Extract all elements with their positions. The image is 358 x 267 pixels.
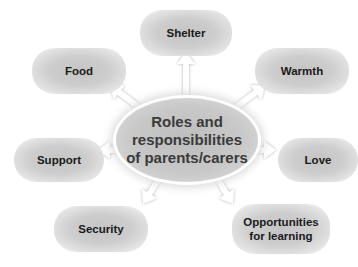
central-topic-line-1: Roles and [126, 113, 248, 131]
node-food: Food [32, 48, 126, 94]
node-love-label: Love [305, 153, 332, 167]
node-opportunities-line-1: Opportunities [243, 215, 318, 229]
arrow-shelter-icon [177, 52, 195, 100]
node-food-label: Food [65, 64, 93, 78]
node-warmth-label: Warmth [281, 64, 323, 78]
node-opportunities: Opportunities for learning [232, 204, 330, 254]
central-topic-line-2: responsibilities [126, 131, 248, 149]
node-shelter: Shelter [140, 10, 232, 56]
node-support: Support [14, 138, 104, 182]
node-security: Security [54, 206, 148, 252]
arrow-opportunities-icon [210, 175, 240, 208]
arrow-security-icon [136, 175, 166, 208]
node-love: Love [278, 138, 358, 182]
node-security-label: Security [78, 222, 123, 236]
node-shelter-label: Shelter [167, 26, 206, 40]
node-support-label: Support [37, 153, 81, 167]
central-topic: Roles and responsibilities of parents/ca… [116, 98, 258, 182]
node-warmth: Warmth [255, 48, 349, 94]
node-opportunities-line-2: for learning [243, 229, 318, 243]
central-topic-line-3: of parents/carers [126, 149, 248, 167]
